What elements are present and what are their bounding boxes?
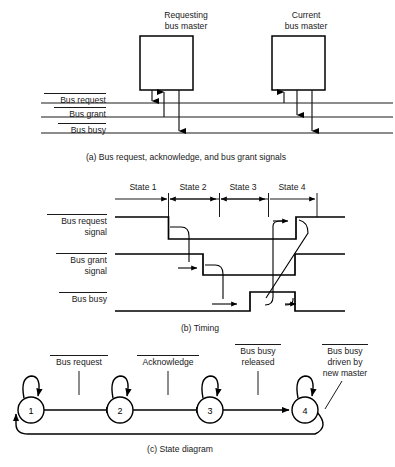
bus-request-signal-label-line2: signal [85,227,108,237]
transition-bus-busy-driven-line3: new master [323,368,368,378]
state-node-2[interactable]: 2 [107,397,133,423]
transition-bus-request-label: Bus request [56,357,102,367]
self-loop-1 [23,376,39,398]
causality-diagonal-link [266,220,308,298]
bus-grant-waveform [115,254,345,275]
transition-bus-busy-driven-line1: Bus busy [327,346,363,356]
transition-bus-busy-driven-group: Bus busy driven by new master [322,345,368,410]
state-node-1-label: 1 [28,406,33,416]
bus-grant-signal-label-group: Bus grant signal [56,254,108,277]
transition-bus-busy-driven-line2: driven by [328,357,364,367]
self-loop-4 [297,376,313,398]
transition-bus-busy-driven-pointer [325,381,342,409]
bus-grant-signal-label-line1: Bus grant [70,255,107,265]
self-loop-2 [112,376,128,398]
state-node-4[interactable]: 4 [292,397,318,423]
state-1-label: State 1 [129,182,156,192]
bus-busy-signal-label-line1: Bus busy [72,294,108,304]
return-edge-4-to-1 [16,412,323,434]
bus-busy-waveform [115,292,345,311]
bus-request-waveform [115,217,345,239]
panel-b: State 1 State 2 State 3 State 4 Bus requ… [47,182,345,333]
panel-a: Requesting bus master Current bus master… [41,10,393,162]
causality-grant-to-busy-stem [205,265,223,299]
panel-a-caption: (a) Bus request, acknowledge, and bus gr… [86,152,286,162]
requesting-bus-master-box [140,36,193,90]
transition-bus-busy-released-line1: Bus busy [240,346,276,356]
transition-bus-busy-released-line2: released [242,357,275,367]
transition-acknowledge-group: Acknowledge [137,356,199,396]
bus-grant-label: Bus grant [69,109,106,119]
self-loop-3 [202,376,218,398]
bus-request-signal-label-group: Bus request signal [47,215,108,238]
state-node-4-label: 4 [302,406,307,416]
figure-root: Requesting bus master Current bus master… [0,0,395,467]
panel-b-caption: (b) Timing [181,323,219,333]
current-bus-master-title: Current bus master [285,10,328,31]
transition-bus-request-group: Bus request [50,356,108,396]
bus-request-signal-label-line1: Bus request [61,216,107,226]
requesting-bus-master-title: Requesting bus master [164,10,208,31]
bus-grant-signal-label-line2: signal [85,266,108,276]
bus-arbitration-figure: Requesting bus master Current bus master… [0,0,395,467]
transition-bus-busy-released-group: Bus busy released [235,345,281,396]
state-3-label: State 3 [229,182,256,192]
current-bus-master-box [272,36,325,90]
state-4-label: State 4 [278,182,305,192]
state-node-1[interactable]: 1 [18,397,44,423]
bus-busy-signal-label-group: Bus busy [59,293,108,305]
transition-acknowledge-label: Acknowledge [142,357,193,367]
requesting-bus-master-title-line1: Requesting [164,10,208,20]
causality-request-to-grant-stem [170,227,189,262]
state-2-label: State 2 [179,182,206,192]
state-node-2-label: 2 [117,406,122,416]
bus-busy-label: Bus busy [71,125,107,135]
current-bus-master-title-line2: bus master [285,21,328,31]
state-node-3[interactable]: 3 [197,397,223,423]
panel-c-caption: (c) State diagram [147,444,213,454]
current-bus-master-title-line1: Current [292,10,321,20]
panel-c: Bus request Acknowledge Bus busy release… [16,345,368,455]
state-node-3-label: 3 [207,406,212,416]
requesting-bus-master-title-line2: bus master [165,21,208,31]
bus-request-label: Bus request [60,95,106,105]
